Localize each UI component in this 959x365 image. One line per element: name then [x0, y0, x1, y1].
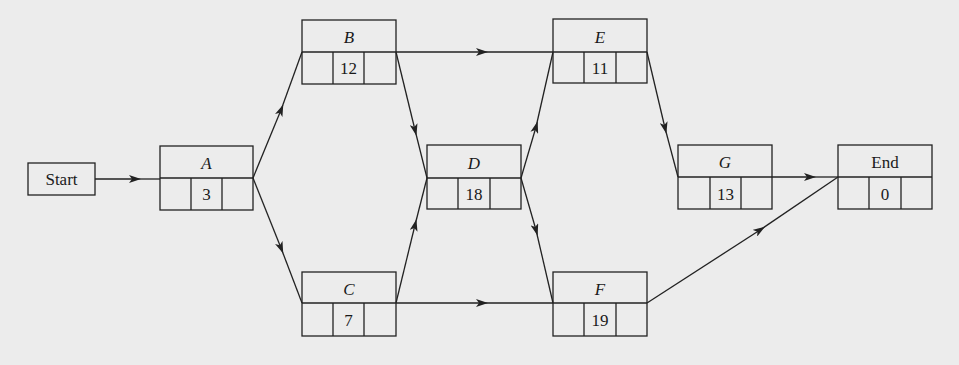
node-a-label: A — [200, 154, 212, 173]
node-b-label: B — [344, 28, 355, 47]
node-f-duration: 19 — [592, 311, 609, 330]
node-e-label: E — [594, 28, 606, 47]
node-b: B 12 — [302, 20, 396, 84]
node-g: G 13 — [678, 145, 772, 209]
edge-e-g — [647, 52, 678, 177]
node-d-label: D — [467, 154, 481, 173]
node-f: F 19 — [553, 272, 647, 336]
edge-a-b — [253, 52, 302, 178]
edge-a-c — [253, 178, 302, 303]
node-start: Start — [28, 163, 95, 195]
network-diagram: Start A 3 B 12 C 7 D 18 — [0, 0, 959, 365]
edge-b-d — [396, 52, 427, 178]
node-e: E 11 — [553, 19, 647, 83]
node-end-label: End — [871, 153, 899, 172]
node-c-duration: 7 — [344, 311, 353, 330]
node-c-label: C — [343, 280, 355, 299]
node-e-duration: 11 — [592, 59, 608, 78]
node-a: A 3 — [160, 146, 253, 210]
node-g-label: G — [719, 153, 731, 172]
node-start-label: Start — [45, 170, 77, 189]
node-end-duration: 0 — [881, 185, 890, 204]
node-f-label: F — [594, 280, 606, 299]
node-a-duration: 3 — [202, 185, 211, 204]
edge-d-e — [521, 52, 553, 178]
edge-f-end — [647, 177, 838, 303]
node-d-duration: 18 — [466, 185, 483, 204]
edge-c-d — [396, 178, 427, 303]
node-b-duration: 12 — [340, 59, 357, 78]
node-g-duration: 13 — [717, 185, 734, 204]
node-d: D 18 — [427, 145, 521, 209]
node-c: C 7 — [302, 272, 396, 336]
edge-d-f — [521, 178, 553, 303]
node-end: End 0 — [838, 145, 932, 209]
